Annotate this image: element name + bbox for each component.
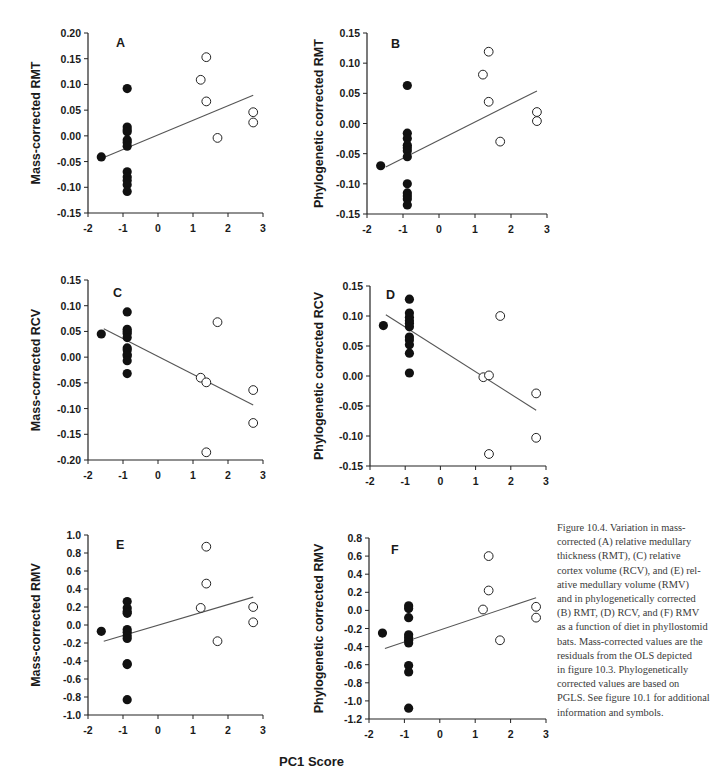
open-data-point [249,419,258,428]
y-tick-label: -0.15 [57,207,81,219]
y-axis-label: Mass-corrected RMT [29,61,43,184]
caption-line: ative medullary volume (RMV) [557,578,713,592]
open-data-point [202,53,211,62]
caption-line: thickness (RMT), (C) relative [557,549,713,563]
open-data-point [532,433,541,442]
filled-data-point [405,295,414,304]
y-axis-label: Phylogenetic corrected RCV [312,291,326,460]
caption-line: corrected values are based on [557,677,713,691]
x-tick-label: 0 [155,222,161,234]
filled-data-point [405,340,414,349]
open-data-point [249,603,258,612]
open-data-point [533,108,542,117]
x-tick-label: 0 [436,223,442,235]
x-tick-label: 0 [437,475,443,487]
filled-data-point [404,704,413,713]
filled-data-point [376,161,385,170]
y-tick-label: -0.15 [336,208,360,220]
y-tick-label: 0.4 [347,568,362,580]
panel-e: 1.00.80.60.40.20.0-0.2-0.4-0.6-0.8-1.0-2… [29,529,266,736]
filled-data-point [404,604,413,613]
filled-data-point [405,349,414,358]
x-tick-label: 0 [155,469,161,481]
y-tick-label: 0.05 [343,340,364,352]
y-tick-label: -1.2 [344,713,362,725]
y-tick-label: -1.0 [63,709,81,721]
caption-line: cortex volume (RCV), and (E) rel- [557,564,713,578]
open-data-point [532,389,541,398]
x-tick-label: 0 [155,724,161,736]
y-tick-label: 0.0 [347,604,362,616]
y-tick-label: 0.2 [66,601,81,613]
filled-data-point [403,152,412,161]
y-tick-label: 0.05 [61,325,82,337]
x-tick-label: -2 [83,469,92,481]
open-data-point [484,552,493,561]
y-tick-label: 0.2 [347,586,362,598]
y-tick-label: 0.4 [66,583,81,595]
y-tick-label: -0.05 [57,377,81,389]
caption-line: and in phylogenetically corrected [557,592,713,606]
figure-caption: Figure 10.4. Variation in mass-corrected… [557,521,713,720]
y-tick-label: 0.00 [61,130,82,142]
open-data-point [202,542,211,551]
y-tick-label: -1.0 [344,695,362,707]
y-tick-label: 0.8 [347,532,362,544]
x-tick-label: 2 [508,475,514,487]
filled-data-point [123,127,132,136]
x-tick-label: -2 [83,724,92,736]
y-tick-label: -0.8 [344,677,362,689]
y-tick-label: 1.0 [66,529,81,541]
x-tick-label: -1 [118,222,127,234]
y-tick-label: 0.8 [66,547,81,559]
panel-f: 0.80.60.40.20.0-0.2-0.4-0.6-0.8-1.0-1.2-… [312,532,549,740]
panel-letter: F [391,543,399,557]
filled-data-point [404,638,413,647]
x-tick-label: 1 [190,724,196,736]
y-tick-label: -0.8 [63,691,81,703]
open-data-point [196,604,205,613]
y-tick-label: 0.6 [66,565,81,577]
x-tick-label: 1 [472,728,478,740]
x-tick-label: 2 [225,724,231,736]
x-tick-label: 3 [543,728,549,740]
y-tick-label: -0.05 [339,400,363,412]
open-data-point [485,371,494,380]
caption-line: PGLS. See figure 10.1 for additional [557,691,713,705]
open-data-point [532,613,541,622]
filled-data-point [123,634,132,643]
panel-letter: A [116,36,125,50]
caption-line: residuals from the OLS depicted [557,649,713,663]
y-tick-label: -0.2 [344,623,362,635]
open-data-point [485,450,494,459]
open-data-point [213,134,222,143]
y-tick-label: -0.10 [336,178,360,190]
filled-data-point [123,356,132,365]
x-tick-label: 1 [472,223,478,235]
filled-data-point [97,627,106,636]
filled-data-point [405,368,414,377]
y-tick-label: -0.2 [63,637,81,649]
y-axis-label: Phylogenetic corrected RMV [312,543,326,713]
y-tick-label: 0.05 [340,87,361,99]
x-tick-label: -1 [400,728,409,740]
panel-b: 0.150.100.050.00-0.05-0.10-0.15-2-10123P… [312,27,550,235]
filled-data-point [378,628,387,637]
filled-data-point [123,660,132,669]
open-data-point [213,637,222,646]
panel-letter: E [116,538,124,552]
x-tick-label: 2 [508,223,514,235]
y-tick-label: 0.6 [347,550,362,562]
x-tick-label: 3 [260,222,266,234]
panel-letter: B [391,37,400,51]
open-data-point [479,70,488,79]
y-axis-label: Phylogenetic corrected RMT [312,39,326,208]
open-data-point [484,586,493,595]
caption-line: as a function of diet in phyllostomid [557,620,713,634]
open-data-point [213,318,222,327]
x-tick-label: -1 [118,724,127,736]
filled-data-point [123,369,132,378]
caption-line: information and symbols. [557,706,713,720]
y-axis-label: Mass-corrected RCV [29,308,43,431]
x-tick-label: 2 [508,728,514,740]
